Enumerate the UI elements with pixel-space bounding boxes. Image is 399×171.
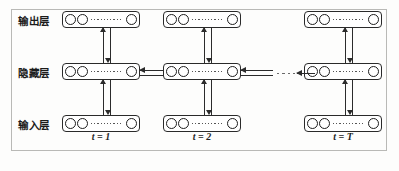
unit-circle	[307, 118, 318, 129]
node-group-output-t1	[62, 11, 140, 28]
node-group-hidden-tT	[304, 63, 382, 80]
unit-circle	[166, 118, 177, 129]
unit-circle	[65, 118, 76, 129]
connector-line	[204, 80, 205, 115]
sequence-continuation-dots	[277, 73, 296, 74]
unit-circle	[227, 118, 238, 129]
arrowhead-left-icon	[240, 67, 246, 73]
units-ellipsis	[91, 19, 123, 20]
unit-circle	[307, 14, 318, 25]
unit-circle	[178, 118, 189, 129]
units-ellipsis	[333, 71, 365, 72]
connector-line	[345, 80, 346, 115]
units-ellipsis	[91, 71, 123, 72]
arrowhead-down-icon	[347, 110, 353, 115]
layer-label-input: 输入层	[18, 117, 50, 132]
connector-line	[204, 28, 205, 63]
unit-circle	[319, 118, 330, 129]
arrowhead-down-icon	[105, 58, 111, 63]
recurrent-arrow-t1-t2	[140, 70, 164, 76]
units-ellipsis	[333, 19, 365, 20]
unit-circle	[77, 66, 88, 77]
unit-circle	[227, 14, 238, 25]
unit-circle	[126, 14, 137, 25]
units-ellipsis	[192, 71, 224, 72]
arrowhead-down-icon	[206, 58, 212, 63]
unit-circle	[77, 118, 88, 129]
arrowhead-up-icon	[201, 79, 207, 84]
unit-circle	[368, 14, 379, 25]
arrowhead-down-icon	[347, 58, 353, 63]
units-ellipsis	[192, 123, 224, 124]
unit-circle	[368, 66, 379, 77]
timestep-caption-tT: t = T	[304, 131, 382, 142]
unit-circle	[126, 118, 137, 129]
arrowhead-up-icon	[100, 79, 106, 84]
arrow-line	[241, 75, 273, 76]
unit-circle	[77, 14, 88, 25]
unit-circle	[178, 14, 189, 25]
node-group-hidden-t1	[62, 63, 140, 80]
unit-circle	[319, 66, 330, 77]
recurrent-arrow-mid-tT	[297, 73, 315, 79]
unit-circle	[166, 14, 177, 25]
layer-label-output: 输出层	[18, 13, 50, 28]
arrowhead-down-icon	[206, 110, 212, 115]
unit-circle	[227, 66, 238, 77]
unit-circle	[65, 14, 76, 25]
connector-line	[103, 80, 104, 115]
rnn-unfolded-diagram: 输出层 隐藏层 输入层	[0, 0, 399, 171]
node-group-input-t2	[163, 115, 241, 132]
connector-line	[103, 28, 104, 63]
unit-circle	[166, 66, 177, 77]
arrowhead-left-icon	[296, 70, 302, 76]
unit-circle	[178, 66, 189, 77]
unit-circle	[126, 66, 137, 77]
layer-label-hidden: 隐藏层	[18, 65, 50, 80]
node-group-input-tT	[304, 115, 382, 132]
node-group-output-t2	[163, 11, 241, 28]
arrowhead-left-icon	[139, 67, 145, 73]
units-ellipsis	[192, 19, 224, 20]
node-group-input-t1	[62, 115, 140, 132]
units-ellipsis	[91, 123, 123, 124]
recurrent-arrow-t2-mid	[241, 70, 273, 76]
node-group-hidden-t2	[163, 63, 241, 80]
arrowhead-up-icon	[100, 27, 106, 32]
timestep-caption-t2: t = 2	[163, 131, 241, 142]
arrowhead-up-icon	[342, 79, 348, 84]
unit-circle	[319, 14, 330, 25]
units-ellipsis	[333, 123, 365, 124]
node-group-output-tT	[304, 11, 382, 28]
arrowhead-down-icon	[105, 110, 111, 115]
unit-circle	[65, 66, 76, 77]
arrowhead-up-icon	[201, 27, 207, 32]
unit-circle	[368, 118, 379, 129]
timestep-caption-t1: t = 1	[62, 131, 140, 142]
connector-line	[345, 28, 346, 63]
arrow-line	[140, 75, 164, 76]
arrowhead-up-icon	[342, 27, 348, 32]
